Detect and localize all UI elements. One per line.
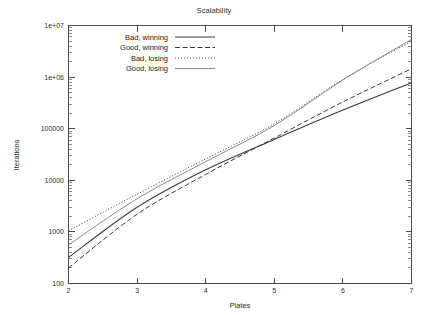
- y-tick-group-10000: 10000: [45, 177, 412, 184]
- legend-label-0: Bad, winning: [125, 33, 168, 42]
- plot-canvas: 100 1000 10000 100000 1e+06: [0, 0, 428, 315]
- x-tick-label: 5: [272, 287, 276, 294]
- legend-label-2: Bad, losing: [131, 54, 168, 63]
- chart-figure: Scalability 100 1000 10000: [0, 0, 428, 315]
- y-tick-label: 1e+07: [44, 22, 64, 29]
- x-axis: 2 3 4 5 6: [67, 26, 414, 295]
- y-tick-label: 100: [52, 280, 64, 287]
- y-axis-title: Iterations: [12, 139, 21, 170]
- chart-legend: Bad, winningGood, winningBad, losingGood…: [120, 33, 215, 74]
- y-tick-group-1e06: 1e+06: [44, 74, 411, 81]
- x-tick-group-6: 6: [341, 26, 345, 295]
- x-tick-label: 3: [135, 287, 139, 294]
- y-tick-label: 10000: [45, 177, 65, 184]
- y-axis: 100 1000 10000 100000 1e+06: [41, 22, 412, 287]
- legend-label-3: Good, losing: [126, 64, 168, 73]
- y-tick-group-100000: 100000: [41, 125, 412, 132]
- legend-label-1: Good, winning: [120, 43, 168, 52]
- x-tick-group-5: 5: [272, 26, 276, 295]
- x-tick-label: 4: [204, 287, 208, 294]
- y-tick-label: 1000: [48, 228, 64, 235]
- x-axis-title: Plates: [230, 301, 251, 310]
- x-tick-label: 2: [67, 287, 71, 294]
- series-layer: [69, 39, 412, 268]
- y-tick-label: 1e+06: [44, 74, 64, 81]
- x-tick-label: 7: [410, 287, 414, 294]
- x-tick-label: 6: [341, 287, 345, 294]
- series-line-1: [69, 69, 412, 268]
- y-minor-ticks: [69, 28, 412, 268]
- series-line-0: [69, 83, 412, 258]
- y-tick-label: 100000: [41, 125, 64, 132]
